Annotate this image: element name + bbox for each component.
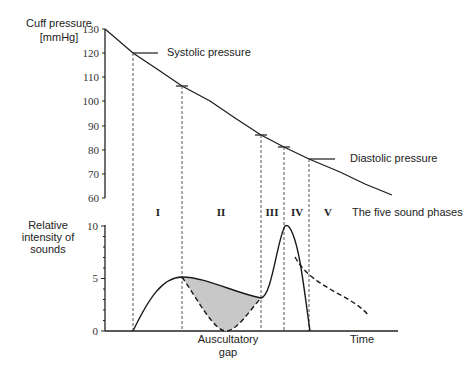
cuff-pressure-panel: Cuff pressure [mmHg] 130 120 110 100 90 …	[26, 17, 437, 204]
phase-label-4: IV	[291, 206, 303, 218]
top-y-axis-label-line2: [mmHg]	[40, 31, 79, 43]
bottom-y-axis-label-line1: Relative	[28, 219, 68, 231]
sound-intensity-panel: Relative intensity of sounds 10 5 0	[22, 219, 398, 358]
top-y-tick-labels: 130 120 110 100 90 80 70 60	[83, 23, 100, 204]
five-sound-phases-label: The five sound phases	[352, 206, 463, 218]
auscultatory-gap-shade	[182, 277, 261, 331]
svg-text:80: 80	[88, 144, 100, 156]
diastolic-pressure-label: Diastolic pressure	[350, 152, 437, 164]
phase-labels: I II III IV V The five sound phases	[156, 206, 463, 218]
svg-text:70: 70	[88, 168, 100, 180]
svg-text:60: 60	[88, 192, 100, 204]
pressure-markers	[133, 53, 335, 159]
svg-text:5: 5	[93, 272, 99, 284]
phase-label-5: V	[324, 206, 332, 218]
bottom-y-axis-label-line2: intensity of	[22, 231, 76, 243]
svg-text:90: 90	[88, 120, 100, 132]
svg-text:100: 100	[83, 95, 100, 107]
phase-label-2: II	[217, 206, 226, 218]
svg-text:10: 10	[87, 220, 99, 232]
auscultatory-gap-label-line2: gap	[219, 346, 237, 358]
svg-text:130: 130	[83, 23, 100, 35]
svg-text:0: 0	[93, 325, 99, 337]
bottom-y-tick-labels: 10 5 0	[87, 220, 99, 337]
phase-label-3: III	[266, 206, 279, 218]
phase-label-1: I	[156, 206, 160, 218]
svg-text:110: 110	[83, 71, 100, 83]
korotkoff-diagram: Cuff pressure [mmHg] 130 120 110 100 90 …	[0, 0, 471, 371]
systolic-pressure-label: Systolic pressure	[167, 46, 251, 58]
bottom-y-axis-label-line3: sounds	[30, 243, 66, 255]
svg-text:120: 120	[83, 47, 100, 59]
time-axis-label: Time	[350, 333, 374, 345]
auscultatory-gap-label-line1: Auscultatory	[198, 333, 259, 345]
